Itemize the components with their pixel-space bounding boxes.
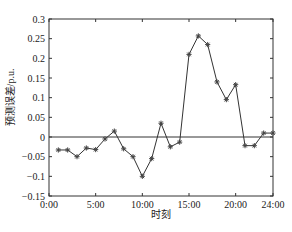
asterisk-marker-icon: [158, 121, 163, 126]
y-tick-label: −0.1: [27, 171, 45, 182]
asterisk-marker-icon: [196, 33, 201, 38]
x-tick-label: 5:00: [87, 199, 105, 210]
y-tick-label: 0.2: [33, 53, 46, 64]
asterisk-marker-icon: [214, 79, 219, 84]
asterisk-marker-icon: [186, 52, 191, 57]
asterisk-marker-icon: [177, 140, 182, 145]
asterisk-marker-icon: [224, 97, 229, 102]
y-tick-label: 0.05: [28, 112, 46, 123]
y-tick-label: 0.25: [28, 33, 46, 44]
x-tick-label: 24:00: [262, 199, 285, 210]
x-axis-label: 时刻: [151, 208, 171, 220]
y-tick-label: 0.3: [33, 14, 46, 25]
series-line: [58, 36, 273, 176]
x-tick-label: 0:00: [40, 199, 58, 210]
y-axis-label: 预测误差/p.u.: [4, 69, 16, 127]
plot-axes: 0.30.250.20.150.10.050−0.05−0.1−0.150:00…: [22, 14, 285, 211]
y-tick-label: 0: [40, 132, 45, 143]
x-tick-label: 20:00: [224, 199, 247, 210]
y-tick-label: −0.05: [22, 151, 45, 162]
y-tick-label: 0.15: [28, 73, 46, 84]
asterisk-marker-icon: [242, 143, 247, 148]
asterisk-marker-icon: [130, 154, 135, 159]
x-tick-label: 15:00: [178, 199, 201, 210]
asterisk-marker-icon: [140, 174, 145, 179]
asterisk-marker-icon: [205, 42, 210, 47]
asterisk-marker-icon: [102, 136, 107, 141]
line-chart: 0.30.250.20.150.10.050−0.05−0.1−0.150:00…: [0, 0, 292, 232]
asterisk-marker-icon: [233, 82, 238, 87]
asterisk-marker-icon: [270, 130, 275, 135]
asterisk-marker-icon: [168, 144, 173, 149]
asterisk-marker-icon: [261, 130, 266, 135]
asterisk-marker-icon: [149, 156, 154, 161]
series-prediction-error: [56, 33, 276, 179]
asterisk-marker-icon: [74, 154, 79, 159]
asterisk-marker-icon: [252, 143, 257, 148]
y-tick-label: 0.1: [33, 92, 46, 103]
asterisk-marker-icon: [56, 147, 61, 152]
